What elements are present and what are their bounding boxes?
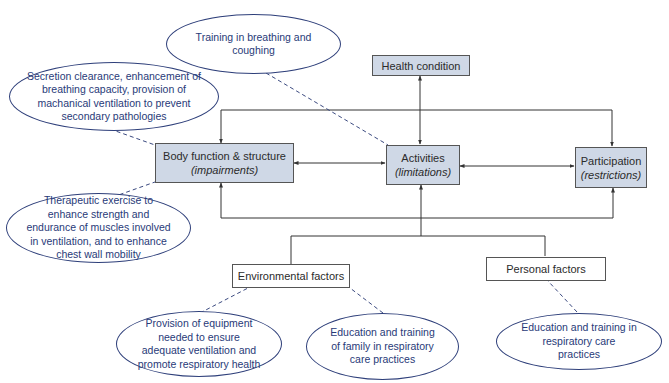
oval-therapeutic-exercise-text: Therapeutic exercise to enhance strength… (23, 194, 174, 262)
environmental-factors-box: Environmental factors (232, 264, 350, 288)
oval-equipment-text: Provision of equipment needed to ensure … (137, 317, 261, 371)
body-function-sublabel: (impairments) (191, 163, 258, 177)
body-function-label: Body function & structure (163, 149, 286, 163)
activities-sublabel: (limitations) (395, 165, 451, 179)
oval-secretion-clearance: Secretion clearance, enhancement of brea… (9, 62, 219, 131)
oval-personal-education-text: Education and training in respiratory ca… (521, 321, 637, 362)
oval-breathing-coughing-text: Training in breathing and coughing (195, 31, 312, 58)
participation-sublabel: (restrictions) (581, 168, 642, 182)
oval-family-education-text: Education and training of family in resp… (325, 326, 440, 367)
personal-factors-label: Personal factors (506, 262, 585, 276)
oval-breathing-coughing: Training in breathing and coughing (166, 14, 341, 74)
participation-box: Participation (restrictions) (575, 147, 647, 188)
oval-personal-education: Education and training in respiratory ca… (496, 313, 662, 370)
oval-equipment: Provision of equipment needed to ensure … (116, 311, 282, 377)
health-condition-label: Health condition (382, 59, 461, 73)
body-function-box: Body function & structure (impairments) (155, 143, 294, 183)
health-condition-box: Health condition (372, 55, 470, 76)
activities-box: Activities (limitations) (386, 145, 460, 185)
activities-label: Activities (401, 151, 444, 165)
oval-therapeutic-exercise: Therapeutic exercise to enhance strength… (6, 193, 191, 263)
oval-secretion-clearance-text: Secretion clearance, enhancement of brea… (26, 70, 202, 124)
participation-label: Participation (581, 154, 642, 168)
oval-family-education: Education and training of family in resp… (306, 313, 459, 380)
environmental-factors-label: Environmental factors (238, 269, 344, 283)
personal-factors-box: Personal factors (486, 257, 606, 281)
